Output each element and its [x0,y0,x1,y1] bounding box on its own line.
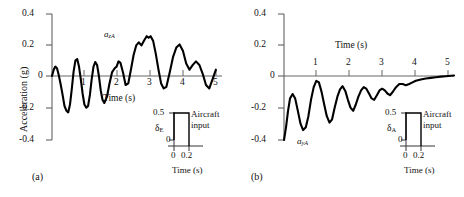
curve-label-a: azA [104,30,115,39]
inset-b-annotation-line2: input [423,121,442,130]
inset-b-caption: Time (s) [404,166,434,175]
curve-label-b-sub: yA [302,140,308,146]
y-tick-label-b-0: 0.4 [254,9,266,19]
inset-b-symbol: δA [387,124,396,134]
inset-b-y-top-label: 0.5 [385,108,396,117]
inset-b-y-bottom-label: 0 [398,135,403,144]
inset-a-y-top-label: 0.5 [153,108,164,117]
panel-a: Acceleration (g) 0.4 0.2 0 -0.2 -0.4 1 2… [0,0,232,197]
inset-a-y-bottom-label: 0 [166,135,171,144]
y-axis-label-a-text: Acceleration (g) [18,67,29,132]
y-tick-label-a-0: 0.4 [22,9,34,19]
inset-a-annotation-line1: Aircraft [191,110,219,119]
x-axis-label-b: Time (s) [335,41,367,51]
x-tick-label-b-1: 1 [313,58,318,68]
y-tick-label-b-2: 0 [270,71,275,81]
panel-label-b: (b) [251,172,263,182]
x-tick-label-a-5: 5 [213,78,218,88]
y-axis-label-a: Acceleration (g) [18,67,29,132]
x-tick-label-a-3: 3 [147,78,152,88]
inset-b-symbol-sub: A [391,126,396,133]
x-tick-label-b-2: 2 [346,58,351,68]
panel-b: 0.4 0.2 0 -0.2 -0.4 1 2 3 4 5 Time (s) a… [232,0,464,197]
inset-b-x-left-label: 0 [403,151,408,160]
curve-b-yA [284,76,454,141]
y-tick-label-b-4: -0.4 [251,135,266,145]
x-axis-label-a: Time (s) [103,94,135,104]
inset-b-x-right-label: 0.2 [413,151,424,160]
x-tick-label-a-2: 2 [114,78,119,88]
x-tick-label-a-4: 4 [180,78,185,88]
panel-label-a: (a) [32,172,43,182]
y-tick-label-a-4: -0.4 [19,135,34,145]
figure-container: Acceleration (g) 0.4 0.2 0 -0.2 -0.4 1 2… [0,0,464,197]
y-tick-label-b-1: 0.2 [254,40,266,50]
inset-b-annotation-line1: Aircraft [423,110,451,119]
inset-a-symbol: δE [155,124,163,134]
x-tick-label-b-4: 4 [412,58,417,68]
inset-a-x-right-label: 0.2 [181,151,192,160]
x-tick-label-b-5: 5 [445,58,450,68]
inset-a-annotation-line2: input [191,121,210,130]
inset-a-symbol-sub: E [159,126,163,133]
x-tick-label-a-1: 1 [81,78,86,88]
curve-label-b: ayA [297,137,308,146]
y-tick-label-a-1: 0.2 [22,40,34,50]
y-tick-label-a-3: -0.2 [19,103,34,113]
inset-a-caption: Time (s) [172,166,202,175]
y-tick-label-a-2: 0 [38,71,43,81]
curve-label-a-sub: zA [109,33,115,39]
inset-a-x-left-label: 0 [171,151,176,160]
y-tick-label-b-3: -0.2 [251,103,266,113]
x-tick-label-b-3: 3 [379,58,384,68]
